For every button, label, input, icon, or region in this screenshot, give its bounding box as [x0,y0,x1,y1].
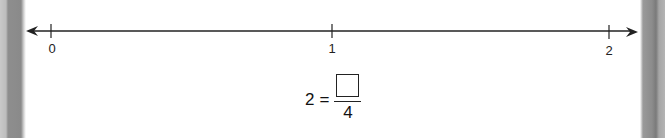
right-arrow-icon [626,27,638,37]
denominator: 4 [343,104,352,122]
fraction: 4 [334,74,361,122]
tick-label-0: 0 [48,41,55,56]
equals-sign: = [319,90,329,110]
tick-label-1: 1 [328,41,335,56]
whole-number: 2 [305,90,314,110]
numerator-answer-box[interactable] [336,74,359,97]
fraction-bar [334,101,361,102]
equation: 2 = 4 [305,68,361,128]
tick-label-2: 2 [605,43,612,58]
